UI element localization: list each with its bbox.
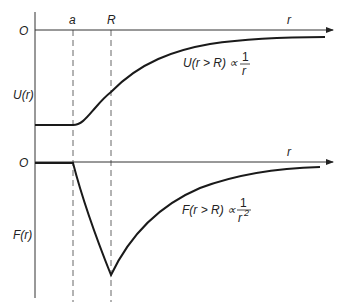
- force-annotation-exponent: 2: [243, 208, 249, 218]
- top-origin-label: O: [19, 24, 28, 38]
- force-annotation: F(r > R) ∝: [182, 203, 236, 217]
- marker-R-label: R: [107, 13, 116, 27]
- bottom-origin-label: O: [19, 156, 28, 170]
- marker-a-label: a: [69, 13, 76, 27]
- potential-y-label: U(r): [13, 88, 34, 102]
- potential-curve: [35, 37, 325, 125]
- potential-force-diagram: O a R r U(r) U(r > R) ∝ 1 r O r F(r) F(r…: [0, 0, 344, 308]
- force-annotation-denominator: r: [238, 211, 243, 225]
- top-r-axis-label: r: [287, 13, 292, 27]
- potential-annotation-numerator: 1: [242, 50, 249, 64]
- force-y-label: F(r): [13, 228, 32, 242]
- bottom-r-axis-label: r: [287, 145, 292, 159]
- potential-annotation-denominator: r: [242, 64, 247, 78]
- force-curve: [35, 163, 320, 275]
- potential-annotation: U(r > R) ∝: [183, 56, 238, 70]
